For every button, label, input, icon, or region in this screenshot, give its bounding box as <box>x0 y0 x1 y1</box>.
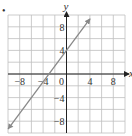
y-tick-label: 8 <box>60 22 65 33</box>
problem-marker: • <box>2 5 6 16</box>
x-tick-label: 4 <box>87 76 92 87</box>
arrowhead-icon <box>8 123 13 129</box>
axes <box>8 12 129 133</box>
x-tick-label: −8 <box>14 76 25 87</box>
x-tick-label: 0 <box>59 76 64 87</box>
y-tick-label: −8 <box>54 116 65 127</box>
coordinate-plane: −8−404884−4−8 • x y <box>0 0 132 136</box>
x-axis-label: x <box>128 67 132 79</box>
y-tick-label: −4 <box>54 93 65 104</box>
y-axis-label: y <box>63 0 69 12</box>
x-tick-label: 8 <box>111 76 116 87</box>
